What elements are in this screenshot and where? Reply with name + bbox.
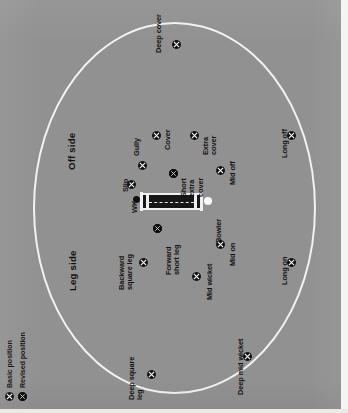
label-gully: Gully [133,138,141,156]
label-long-on: Long on [281,257,289,285]
page-bottom-edge [0,409,348,413]
legend-revised-label: Revised position [19,332,27,388]
label-deep-cover: Deep cover [155,14,163,53]
bowler-marker [204,197,212,205]
fielder-marker-mid-on[interactable] [216,240,225,249]
label-extra-cover: Extra cover [202,136,219,155]
fielder-marker-deep-cover[interactable] [172,40,181,49]
fielder-marker-gully[interactable] [138,161,147,170]
label-deep-square-leg: Deep square leg [128,357,145,400]
page-right-edge [341,0,348,413]
legend-basic-icon [5,392,14,401]
label-short-extra-cover: Short extra cover [180,178,205,197]
legend-revised-icon [18,392,27,401]
fielder-marker-short-extra-cover[interactable] [169,169,178,178]
legend-basic-label: Basic position [6,340,14,388]
fielder-marker-mid-wicket[interactable] [192,272,201,281]
label-long-off: Long off [281,129,289,158]
label-off-side: Off side [67,133,77,170]
label-wk: WK [131,201,139,213]
fielder-marker-backward-square-leg[interactable] [139,258,148,267]
pitch-crease-end-left [140,192,143,211]
label-forward-short-leg: Forward short leg [165,245,182,275]
cricket-field-diagram: WK Bowler Off side Leg side Deep cover C… [0,0,348,413]
label-mid-on: Mid on [229,243,237,266]
label-mid-off: Mid off [229,161,237,185]
fielder-marker-deep-square-leg[interactable] [147,370,156,379]
label-backward-square-leg: Backward square leg [118,254,135,290]
label-mid-wicket: Mid wicket [206,264,214,300]
label-slip: Slip [122,179,130,192]
fielder-marker-forward-short-leg[interactable] [153,224,162,233]
label-cover: Cover [164,130,172,150]
fielder-marker-extra-cover[interactable] [190,131,199,140]
fielder-marker-cover[interactable] [152,131,161,140]
fielder-marker-mid-off[interactable] [216,166,225,175]
label-deep-mid-wicket: Deep mid wicket [237,339,245,395]
pitch-center-line [149,202,194,203]
label-leg-side: Leg side [68,250,78,291]
